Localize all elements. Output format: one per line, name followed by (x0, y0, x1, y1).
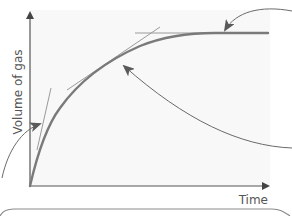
y-axis-label: Volume of gas (11, 49, 25, 134)
rate-graph: Volume of gas Time (0, 0, 292, 216)
callout-box (0, 209, 290, 216)
plot-area (30, 10, 270, 186)
x-axis-label: Time (238, 193, 268, 207)
